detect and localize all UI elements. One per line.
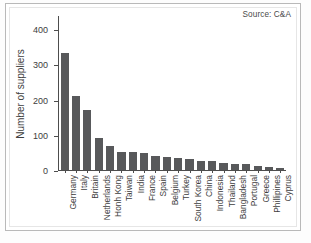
bar-series: GermanyItalyBritainNetherlandsHonh KongT… bbox=[59, 15, 286, 170]
x-axis-tick bbox=[76, 170, 77, 173]
x-axis-tick-label: Germany bbox=[68, 175, 78, 209]
bar-group: Thailand bbox=[218, 15, 229, 170]
bar bbox=[174, 158, 182, 170]
bar-group: Spain bbox=[150, 15, 161, 170]
x-axis-tick bbox=[258, 170, 259, 173]
bar bbox=[129, 152, 137, 170]
x-axis-tick-label: Spain bbox=[158, 175, 168, 196]
y-axis-tick: 300 bbox=[54, 65, 58, 66]
x-axis-tick bbox=[155, 170, 156, 173]
x-axis-line bbox=[58, 170, 286, 171]
x-axis-tick bbox=[269, 170, 270, 173]
bar-group: Honh Kong bbox=[104, 15, 115, 170]
x-axis-tick bbox=[235, 170, 236, 173]
x-axis-tick-label: France bbox=[147, 175, 157, 201]
bar-group: Italy bbox=[70, 15, 81, 170]
x-axis-tick bbox=[190, 170, 191, 173]
bar bbox=[185, 159, 193, 170]
bar-group: South Korea bbox=[184, 15, 195, 170]
x-axis-tick-label: Netherlands bbox=[102, 175, 112, 220]
bar-group: Turkey bbox=[173, 15, 184, 170]
x-axis-tick bbox=[87, 170, 88, 173]
y-axis-tick-label: 400 bbox=[33, 25, 48, 35]
bar-group: Germany bbox=[59, 15, 70, 170]
bar-group: Britain bbox=[82, 15, 93, 170]
x-axis-tick bbox=[121, 170, 122, 173]
x-axis-tick-label: Thailand bbox=[227, 175, 237, 207]
bar bbox=[163, 157, 171, 170]
x-axis-tick-label: India bbox=[136, 175, 146, 193]
x-axis-tick-label: Britain bbox=[90, 175, 100, 199]
bar bbox=[208, 161, 216, 170]
bar bbox=[140, 153, 148, 170]
bar bbox=[95, 138, 103, 170]
x-axis-tick-label: Phillipines bbox=[272, 175, 282, 213]
x-axis-tick bbox=[280, 170, 281, 173]
y-axis-title: Number of suppliers bbox=[15, 49, 26, 138]
bar-group: Portugal bbox=[241, 15, 252, 170]
bar bbox=[106, 146, 114, 170]
x-axis-tick-label: Taiwan bbox=[124, 175, 134, 201]
bar-group: Phillipines bbox=[263, 15, 274, 170]
x-axis-tick bbox=[201, 170, 202, 173]
y-axis-tick: 200 bbox=[54, 101, 58, 102]
x-axis-tick bbox=[246, 170, 247, 173]
bar-group: China bbox=[195, 15, 206, 170]
bar-group: Indonesia bbox=[207, 15, 218, 170]
bar bbox=[117, 152, 125, 170]
x-axis-tick-label: Indonesia bbox=[215, 175, 225, 211]
chart-figure: Source: C&A Number of suppliers 01002003… bbox=[5, 3, 301, 231]
y-axis-tick: 0 bbox=[54, 171, 58, 172]
bar bbox=[72, 96, 80, 170]
bar-group: India bbox=[127, 15, 138, 170]
x-axis-tick-label: Honh Kong bbox=[113, 175, 123, 217]
bar-group: Cyprus bbox=[275, 15, 286, 170]
x-axis-tick-label: Bangladesh bbox=[238, 175, 248, 219]
y-axis-tick: 400 bbox=[54, 30, 58, 31]
y-axis-tick-label: 300 bbox=[33, 60, 48, 70]
x-axis-tick-label: Belgium bbox=[170, 175, 180, 205]
x-axis-tick bbox=[133, 170, 134, 173]
bar-group: Greece bbox=[252, 15, 263, 170]
x-axis-tick-label: Turkey bbox=[181, 175, 191, 200]
x-axis-tick bbox=[212, 170, 213, 173]
y-axis-tick: 100 bbox=[54, 136, 58, 137]
x-axis-tick bbox=[178, 170, 179, 173]
x-axis-tick-label: South Korea bbox=[193, 175, 203, 222]
x-axis-tick-label: China bbox=[204, 175, 214, 197]
x-axis-tick bbox=[224, 170, 225, 173]
bar bbox=[151, 156, 159, 170]
plot-area: 0100200300400 GermanyItalyBritainNetherl… bbox=[58, 16, 286, 171]
bar-group: Netherlands bbox=[93, 15, 104, 170]
x-axis-tick bbox=[110, 170, 111, 173]
bar-group: Taiwan bbox=[116, 15, 127, 170]
x-axis-tick bbox=[167, 170, 168, 173]
bar bbox=[61, 53, 69, 170]
x-axis-tick-label: Greece bbox=[261, 175, 271, 202]
bar bbox=[219, 163, 227, 170]
bar bbox=[83, 110, 91, 170]
bar bbox=[197, 161, 205, 170]
y-axis-tick-label: 0 bbox=[43, 166, 48, 176]
x-axis-tick-label: Italy bbox=[79, 175, 89, 190]
bar-group: Bangladesh bbox=[229, 15, 240, 170]
bar-group: France bbox=[138, 15, 149, 170]
bar-group: Belgium bbox=[161, 15, 172, 170]
x-axis-tick bbox=[65, 170, 66, 173]
x-axis-tick bbox=[144, 170, 145, 173]
y-axis-tick-label: 100 bbox=[33, 131, 48, 141]
x-axis-tick-label: Cyprus bbox=[283, 175, 293, 202]
x-axis-tick bbox=[99, 170, 100, 173]
x-axis-tick-label: Portugal bbox=[249, 175, 259, 206]
y-axis-tick-label: 200 bbox=[33, 96, 48, 106]
